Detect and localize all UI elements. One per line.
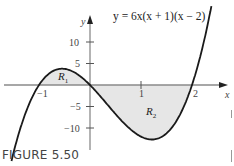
- y-tick-label-neg5: −5: [70, 101, 81, 112]
- y-axis-arrow-icon: [87, 15, 93, 24]
- x-tick-label-2: 2: [193, 88, 198, 99]
- x-tick-label-neg1: −1: [37, 88, 48, 99]
- page-edge-mark: [231, 150, 232, 162]
- x-axis-arrow-icon: [219, 82, 228, 88]
- y-tick-label-10: 10: [69, 37, 79, 48]
- y-axis-label: y: [81, 16, 85, 27]
- page-edge-mark: [231, 110, 232, 118]
- region-r2-label: R2: [146, 105, 156, 120]
- x-tick-label-1: 1: [139, 88, 144, 99]
- figure-caption: FIGURE 5.50: [2, 148, 79, 162]
- y-tick-label-5: 5: [75, 58, 80, 69]
- equation-label: y = 6x(x + 1)(x − 2): [113, 10, 205, 22]
- y-tick-label-neg10: −10: [64, 123, 80, 134]
- function-plot: [0, 0, 234, 166]
- x-axis-label: x: [225, 89, 229, 100]
- region-r1-label: R1: [58, 70, 68, 85]
